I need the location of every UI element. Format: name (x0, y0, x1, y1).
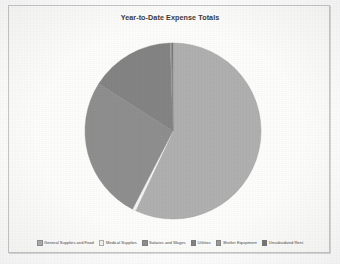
pie-plot-area: General Supplies and Food: 57%Medical Su… (9, 20, 331, 225)
legend-swatch-icon (216, 240, 222, 246)
legend-item[interactable]: General Supplies and Food (37, 240, 94, 246)
legend-swatch-icon (262, 240, 268, 246)
legend-item-label: General Supplies and Food (44, 241, 94, 245)
chart-legend: General Supplies and FoodMedical Supplie… (9, 240, 331, 246)
legend-swatch-icon (37, 240, 43, 246)
legend-item[interactable]: Medical Supplies (99, 240, 137, 246)
legend-item[interactable]: Utilities (191, 240, 211, 246)
legend-item[interactable]: Salaries and Wages (142, 240, 186, 246)
pie-slice-group: General Supplies and Food: 57%Medical Su… (85, 43, 261, 219)
legend-item[interactable]: Shelter Equipment (216, 240, 257, 246)
legend-item[interactable]: Unsubsidized Rent (262, 240, 303, 246)
scanned-page: Year-to-Date Expense Totals General Supp… (0, 0, 340, 264)
legend-item-label: Salaries and Wages (149, 241, 185, 245)
legend-item-label: Shelter Equipment (223, 241, 257, 245)
legend-swatch-icon (99, 240, 105, 246)
legend-item-label: Utilities (198, 241, 211, 245)
chart-container: Year-to-Date Expense Totals General Supp… (8, 5, 330, 253)
legend-swatch-icon (191, 240, 197, 246)
pie-chart-svg: General Supplies and Food: 57%Medical Su… (9, 20, 331, 225)
legend-item-label: Medical Supplies (106, 241, 137, 245)
legend-item-label: Unsubsidized Rent (269, 241, 303, 245)
legend-swatch-icon (142, 240, 148, 246)
